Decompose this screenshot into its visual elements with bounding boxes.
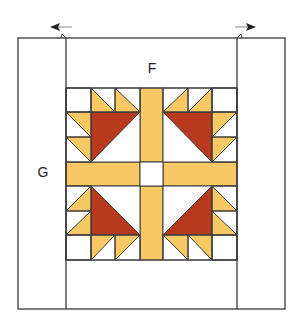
- center-square: [140, 162, 163, 186]
- pieced-block: [66, 88, 237, 260]
- arrow-right-icon: [235, 23, 256, 31]
- border-label-g: G: [38, 164, 49, 180]
- quilt-assembly-diagram: F G: [0, 0, 305, 328]
- arrow-left-icon: [50, 23, 72, 31]
- sashing-right: [163, 162, 237, 186]
- border-label-f: F: [148, 60, 157, 76]
- sashing-left: [66, 162, 140, 186]
- sashing-bottom: [140, 186, 163, 260]
- sashing-top: [140, 88, 163, 162]
